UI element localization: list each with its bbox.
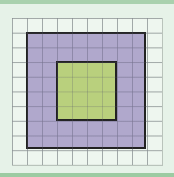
bottom-accent-band xyxy=(0,173,174,177)
top-accent-band xyxy=(0,0,174,4)
inner-green-square xyxy=(56,61,117,121)
